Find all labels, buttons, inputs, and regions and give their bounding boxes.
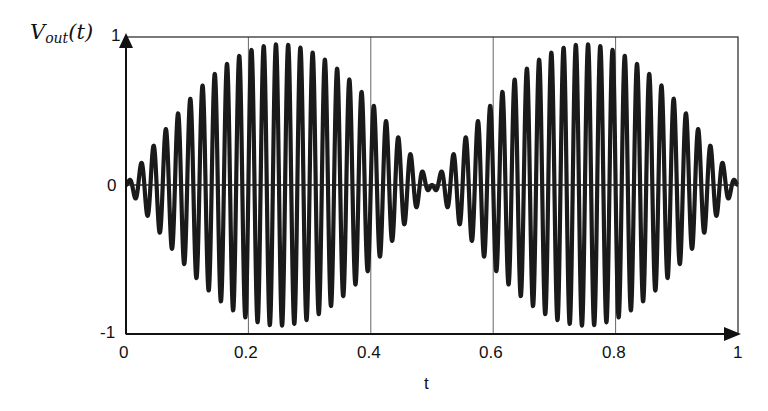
x-tick-1: 1	[733, 344, 742, 361]
x-tick-0.2: 0.2	[234, 344, 258, 361]
x-tick-0.6: 0.6	[479, 344, 503, 361]
x-axis-label: t	[424, 375, 429, 392]
x-tick-0.4: 0.4	[357, 344, 381, 361]
y-axis-label: Vout(t)	[30, 22, 93, 45]
x-tick-0.8: 0.8	[602, 344, 626, 361]
y-tick-minus-1: -1	[100, 324, 115, 341]
y-tick-0: 0	[107, 177, 116, 194]
y-tick-1: 1	[111, 27, 120, 44]
chart-canvas	[0, 0, 768, 411]
y-axis-arrow-icon	[119, 33, 133, 48]
x-tick-0: 0	[119, 344, 128, 361]
